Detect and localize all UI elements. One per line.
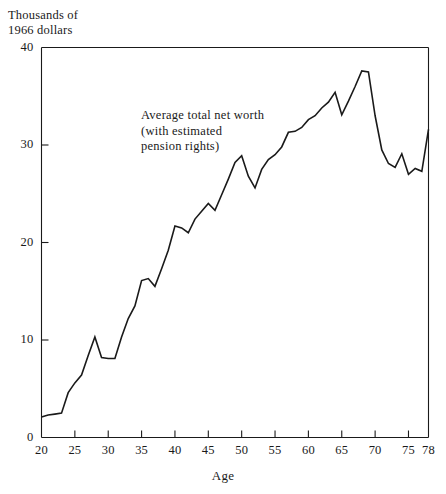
x-tick-label-65: 65 xyxy=(329,443,355,458)
x-tick-label-70: 70 xyxy=(362,443,388,458)
x-tick-label-45: 45 xyxy=(195,443,221,458)
data-line-series xyxy=(42,71,429,417)
x-axis-title: Age xyxy=(0,468,446,484)
x-tick-label-78: 78 xyxy=(416,443,442,458)
x-tick-label-55: 55 xyxy=(262,443,288,458)
y-tick-label-40: 40 xyxy=(8,40,34,55)
plot-svg xyxy=(0,0,446,494)
x-tick-label-50: 50 xyxy=(229,443,255,458)
x-tick-label-25: 25 xyxy=(62,443,88,458)
x-tick-label-20: 20 xyxy=(29,443,55,458)
y-tick-label-20: 20 xyxy=(8,235,34,250)
y-tick-label-30: 30 xyxy=(8,137,34,152)
x-tick-label-40: 40 xyxy=(162,443,188,458)
axes-group xyxy=(42,48,429,438)
x-tick-label-35: 35 xyxy=(129,443,155,458)
y-tick-label-10: 10 xyxy=(8,332,34,347)
x-tick-label-60: 60 xyxy=(295,443,321,458)
x-tick-label-30: 30 xyxy=(95,443,121,458)
chart-figure: Thousands of 1966 dollars Average total … xyxy=(0,0,446,494)
